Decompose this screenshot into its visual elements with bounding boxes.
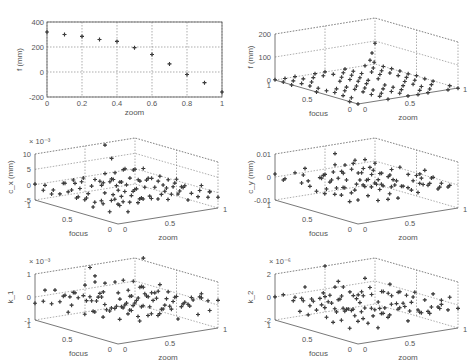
z-axis-label: c_y (mm) bbox=[246, 160, 255, 194]
zoom-tick-label: 0 bbox=[363, 225, 367, 234]
y-tick-label: 0 bbox=[40, 68, 44, 77]
focus-axis-label: focus bbox=[309, 229, 328, 238]
x-tick-label: 1 bbox=[220, 99, 224, 108]
chart-cy_3d: -0.0100.0110.5000.51focuszoomc_y (mm) bbox=[246, 138, 467, 242]
focus-axis-label: focus bbox=[69, 229, 88, 238]
focus-tick-label: 0.5 bbox=[302, 215, 312, 224]
zoom-tick-label: 0 bbox=[363, 345, 367, 354]
chart-f-vs-zoom: 00.20.40.60.81-2000200400zoomf (mm) bbox=[15, 18, 224, 117]
zoom-tick-label: 1 bbox=[463, 205, 467, 214]
chart-cx_3d: -5051010.5000.51focuszoomc_x (mm)× 10⁻³ bbox=[6, 137, 227, 242]
zoom-tick-label: 0 bbox=[363, 105, 367, 114]
focus-tick-label: 0 bbox=[348, 105, 352, 114]
zoom-tick-label: 0.5 bbox=[165, 219, 175, 228]
chart-k1_3d: -10110.5000.51focuszoomk_1× 10⁻³ bbox=[6, 256, 227, 362]
y-tick-label: -200 bbox=[29, 93, 44, 102]
z-tick-label: 10 bbox=[23, 150, 31, 159]
x-axis-label: zoom bbox=[125, 108, 145, 117]
zoom-axis-label: zoom bbox=[398, 353, 418, 362]
x-tick-label: 0.4 bbox=[112, 99, 122, 108]
axis-exponent: × 10⁻³ bbox=[29, 137, 51, 146]
z-axis-label: k_2 bbox=[246, 290, 255, 303]
focus-tick-label: 0 bbox=[108, 345, 112, 354]
chart-f_3d: 010020010.5000.51focuszoomf (mm) bbox=[246, 18, 467, 122]
axis-exponent: × 10⁻⁶ bbox=[269, 257, 291, 266]
zoom-tick-label: 0.5 bbox=[405, 219, 415, 228]
focus-tick-label: 1 bbox=[267, 81, 271, 90]
x-tick-label: 0.8 bbox=[182, 99, 192, 108]
zoom-tick-label: 1 bbox=[223, 205, 227, 214]
axis-exponent: × 10⁻³ bbox=[29, 257, 51, 266]
z-tick-label: 100 bbox=[258, 53, 271, 62]
focus-axis-label: focus bbox=[69, 349, 88, 358]
z-axis-label: f (mm) bbox=[246, 45, 255, 68]
y-axis-label: f (mm) bbox=[15, 48, 24, 71]
zoom-tick-label: 1 bbox=[223, 325, 227, 334]
focus-tick-label: 1 bbox=[27, 201, 31, 210]
focus-tick-label: 0.5 bbox=[62, 335, 72, 344]
z-axis-label: c_x (mm) bbox=[6, 160, 15, 194]
zoom-tick-label: 0 bbox=[123, 225, 127, 234]
x-tick-label: 0.6 bbox=[147, 99, 157, 108]
z-tick-label: 0 bbox=[27, 293, 31, 302]
zoom-tick-label: 0 bbox=[123, 345, 127, 354]
focus-tick-label: 0.5 bbox=[62, 215, 72, 224]
zoom-axis-label: zoom bbox=[398, 113, 418, 122]
zoom-tick-label: 0.5 bbox=[405, 339, 415, 348]
focus-axis-label: focus bbox=[309, 349, 328, 358]
figure: 00.20.40.60.81-2000200400zoomf (mm)01002… bbox=[0, 0, 476, 363]
focus-tick-label: 1 bbox=[27, 321, 31, 330]
z-tick-label: 0 bbox=[27, 181, 31, 190]
focus-tick-label: 0 bbox=[348, 225, 352, 234]
z-axis-label: k_1 bbox=[6, 290, 15, 303]
focus-tick-label: 0.5 bbox=[302, 95, 312, 104]
x-tick-label: 0.2 bbox=[77, 99, 87, 108]
chart-k2_3d: -20210.5000.51focuszoomk_2× 10⁻⁶ bbox=[246, 257, 467, 362]
z-tick-label: 1 bbox=[27, 270, 31, 279]
z-tick-label: 0.01 bbox=[256, 150, 271, 159]
y-tick-label: 400 bbox=[31, 18, 44, 27]
zoom-tick-label: 1 bbox=[463, 85, 467, 94]
zoom-axis-label: zoom bbox=[398, 233, 418, 242]
z-tick-label: 5 bbox=[27, 165, 31, 174]
x-tick-label: 0 bbox=[45, 99, 49, 108]
z-tick-label: 0 bbox=[267, 293, 271, 302]
focus-tick-label: 0 bbox=[348, 345, 352, 354]
focus-tick-label: 1 bbox=[267, 201, 271, 210]
focus-axis-label: focus bbox=[309, 109, 328, 118]
zoom-tick-label: 0.5 bbox=[165, 339, 175, 348]
zoom-axis-label: zoom bbox=[158, 353, 178, 362]
zoom-axis-label: zoom bbox=[158, 233, 178, 242]
zoom-tick-label: 1 bbox=[463, 325, 467, 334]
zoom-tick-label: 0.5 bbox=[405, 99, 415, 108]
z-tick-label: 2 bbox=[267, 270, 271, 279]
z-tick-label: 200 bbox=[258, 30, 271, 39]
y-tick-label: 200 bbox=[31, 43, 44, 52]
focus-tick-label: 1 bbox=[267, 321, 271, 330]
focus-tick-label: 0.5 bbox=[302, 335, 312, 344]
focus-tick-label: 0 bbox=[108, 225, 112, 234]
z-tick-label: 0 bbox=[267, 173, 271, 182]
